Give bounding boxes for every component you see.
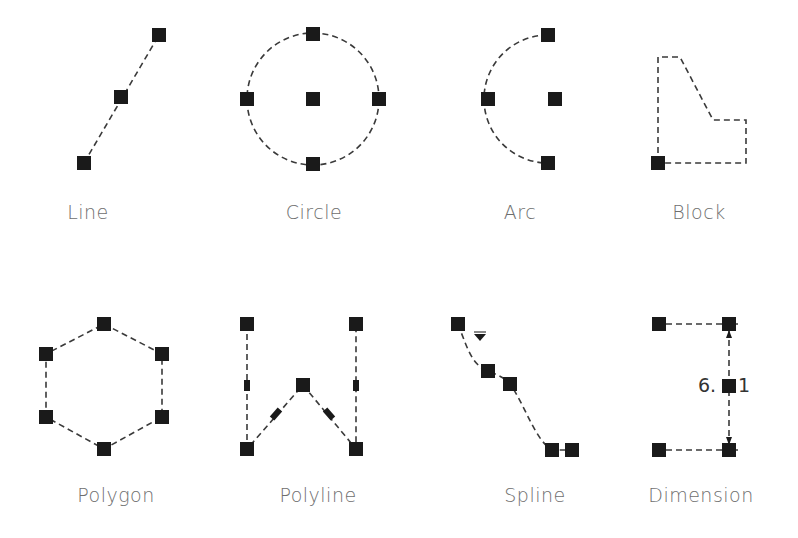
- label-line: Line: [67, 201, 109, 223]
- midpoint-grip-icon[interactable]: [270, 408, 282, 421]
- arrowhead-up-icon: [726, 330, 732, 338]
- circle-object[interactable]: [240, 27, 386, 171]
- grip-square-icon[interactable]: [114, 90, 128, 104]
- dimension-text-left: 6.: [698, 374, 716, 396]
- grip-square-icon[interactable]: [152, 28, 166, 42]
- spline-object[interactable]: [451, 317, 579, 457]
- grip-square-icon[interactable]: [565, 443, 579, 457]
- block-object[interactable]: [651, 57, 746, 170]
- label-spline: Spline: [504, 484, 565, 506]
- arc-object[interactable]: [481, 28, 562, 170]
- grip-square-icon[interactable]: [481, 364, 495, 378]
- grip-square-icon[interactable]: [722, 443, 736, 457]
- grip-square-icon[interactable]: [652, 317, 666, 331]
- grip-square-icon[interactable]: [306, 92, 320, 106]
- grip-square-icon[interactable]: [77, 156, 91, 170]
- block-outline: [658, 57, 746, 163]
- grip-square-icon[interactable]: [545, 443, 559, 457]
- grip-square-icon[interactable]: [451, 317, 465, 331]
- grip-square-icon[interactable]: [39, 410, 53, 424]
- grip-square-icon[interactable]: [548, 92, 562, 106]
- label-polyline: Polyline: [279, 484, 356, 506]
- midpoint-grip-icon[interactable]: [353, 380, 359, 391]
- grip-square-icon[interactable]: [155, 347, 169, 361]
- grip-diagram-canvas: .dash { fill: none; stroke: #3a3a3a; str…: [0, 0, 798, 538]
- grip-square-icon[interactable]: [296, 378, 310, 392]
- label-polygon: Polygon: [77, 484, 155, 506]
- grip-square-icon[interactable]: [652, 443, 666, 457]
- grip-square-icon[interactable]: [240, 92, 254, 106]
- grip-square-icon[interactable]: [349, 317, 363, 331]
- polygon-path: [46, 324, 162, 449]
- line-object[interactable]: [77, 28, 166, 170]
- polygon-object[interactable]: [39, 317, 169, 456]
- midpoint-grip-icon[interactable]: [323, 408, 335, 421]
- grip-square-icon[interactable]: [481, 92, 495, 106]
- label-arc: Arc: [504, 201, 536, 223]
- grip-square-icon[interactable]: [541, 156, 555, 170]
- grip-square-icon[interactable]: [306, 27, 320, 41]
- grip-square-icon[interactable]: [503, 377, 517, 391]
- grip-square-icon[interactable]: [97, 442, 111, 456]
- midpoint-grip-icon[interactable]: [244, 380, 250, 391]
- dimension-text-right: 1: [738, 374, 750, 396]
- dimension-object[interactable]: [652, 317, 738, 457]
- grip-square-icon[interactable]: [651, 156, 665, 170]
- grip-square-icon[interactable]: [541, 28, 555, 42]
- grip-square-icon[interactable]: [306, 157, 320, 171]
- grip-square-icon[interactable]: [722, 379, 736, 393]
- label-block: Block: [672, 201, 725, 223]
- grip-square-icon[interactable]: [240, 317, 254, 331]
- triangle-down-icon[interactable]: [474, 334, 486, 341]
- label-dimension: Dimension: [648, 484, 754, 506]
- polyline-object[interactable]: [240, 317, 363, 456]
- label-circle: Circle: [286, 201, 342, 223]
- grip-square-icon[interactable]: [155, 410, 169, 424]
- grip-square-icon[interactable]: [349, 442, 363, 456]
- grip-square-icon[interactable]: [722, 317, 736, 331]
- grip-square-icon[interactable]: [39, 347, 53, 361]
- grip-square-icon[interactable]: [372, 92, 386, 106]
- grip-square-icon[interactable]: [97, 317, 111, 331]
- grip-square-icon[interactable]: [240, 442, 254, 456]
